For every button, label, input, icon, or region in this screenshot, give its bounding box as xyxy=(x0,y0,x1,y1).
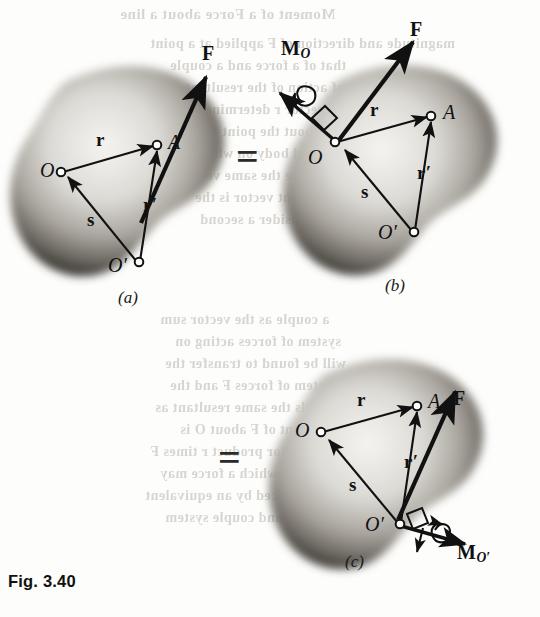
label-MOprime-c: MO′ xyxy=(457,542,490,565)
label-A-a: A xyxy=(168,132,180,152)
moment-rotation-curl-c xyxy=(432,524,450,543)
label-r-b: r xyxy=(370,100,378,119)
point-A-marker-b xyxy=(427,112,436,121)
point-O-prime-marker-b xyxy=(410,228,419,237)
figure-caption: Fig. 3.40 xyxy=(8,572,76,591)
label-r-c: r xyxy=(357,390,365,409)
point-O-marker-a xyxy=(57,168,66,177)
moment-rotation-curl-b xyxy=(295,86,316,105)
label-F-a: F xyxy=(202,43,214,63)
label-r-prime-b: r′ xyxy=(417,163,431,182)
bleedthrough-line: a couple as the vector sum xyxy=(160,312,329,328)
label-O-prime-a: O′ xyxy=(108,255,127,275)
label-A-b: A xyxy=(443,102,455,122)
label-F-b: F xyxy=(410,19,422,39)
panel-b: MO F O A O′ r r′ s xyxy=(265,30,520,285)
caption-panel-a: (a) xyxy=(118,288,138,308)
point-O-prime-marker-a xyxy=(135,258,144,267)
caption-panel-b: (b) xyxy=(385,276,405,296)
label-O-c: O xyxy=(295,420,309,440)
point-O-marker-b xyxy=(331,138,340,147)
equals-sign-b-c: = xyxy=(218,434,241,481)
point-A-marker-a xyxy=(153,141,162,150)
equals-sign-a-b: = xyxy=(236,133,259,180)
label-r-a: r xyxy=(96,130,104,149)
label-F-c: F xyxy=(453,388,465,408)
label-O-a: O xyxy=(40,160,54,180)
label-O-prime-b: O′ xyxy=(378,222,397,242)
moment-vector-MOprime-c xyxy=(401,524,465,552)
label-r-prime-a: r′ xyxy=(143,195,157,214)
point-O-marker-c xyxy=(317,428,326,437)
bleedthrough-line: Moment of a Force about a line xyxy=(120,6,336,23)
point-A-marker-c xyxy=(413,402,422,411)
label-O-prime-c: O′ xyxy=(365,514,384,534)
label-s-a: s xyxy=(87,210,94,229)
rigid-body-shape-c xyxy=(269,359,483,569)
caption-panel-c: (c) xyxy=(345,552,364,572)
point-O-prime-marker-c xyxy=(396,520,405,529)
label-s-c: s xyxy=(349,475,356,494)
label-O-b: O xyxy=(308,147,322,167)
label-s-b: s xyxy=(361,182,368,201)
panel-c: F MO′ O A O′ r r′ s xyxy=(265,330,520,575)
panel-a: F O A O′ r r′ s xyxy=(0,55,245,290)
label-A-c: A xyxy=(428,391,440,411)
figure-page: Moment of a Force about a linemagnitude … xyxy=(0,0,540,617)
label-MO-b: MO xyxy=(281,38,310,61)
label-r-prime-c: r′ xyxy=(404,452,418,471)
